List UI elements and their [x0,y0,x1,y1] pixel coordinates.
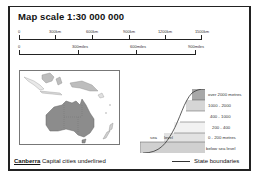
miles-tick-label: 0 [18,44,20,49]
capital-legend-text: Capital cities underlined [40,158,105,164]
km-tick-label: 1200km [158,29,172,34]
miles-tick-label: 600miles [130,44,146,49]
state-boundaries-label: State boundaries [194,158,239,164]
km-tick-label: 600km [86,29,98,34]
level-label: level [164,135,173,140]
elevation-level-label: below sea level [206,146,235,151]
km-tick-label: 300km [49,29,61,34]
footer-legend: Canberra Capital cities underlined State… [14,158,106,164]
miles-tick-label: 300miles [72,44,88,49]
state-boundary-line-icon [172,161,190,162]
elevation-level-label: 1000 - 2000 [208,103,231,108]
map-scale-title: Map scale 1:30 000 000 [18,11,124,22]
miles-tick-label: 900miles [188,44,204,49]
elevation-level-label: over 2000 metres [208,92,241,97]
km-tick-label: 900km [123,29,135,34]
elevation-key: sea level over 2000 metres 1000 - 2000 4… [140,89,250,153]
state-boundaries-legend: State boundaries [172,158,239,164]
elevation-profile-icon [140,89,250,153]
elevation-level-label: 400 - 1000 [210,114,231,119]
capital-example: Canberra [14,158,40,164]
km-tick-label: 0 [18,29,20,34]
km-tick-label: 1500km [195,29,209,34]
sea-label: sea [150,135,157,140]
elevation-level-label: 200 - 400 [212,125,230,130]
australia-map-icon [20,71,119,144]
elevation-level-label: 0 - 200 metres [208,135,236,140]
australasia-inset-map [19,70,120,145]
